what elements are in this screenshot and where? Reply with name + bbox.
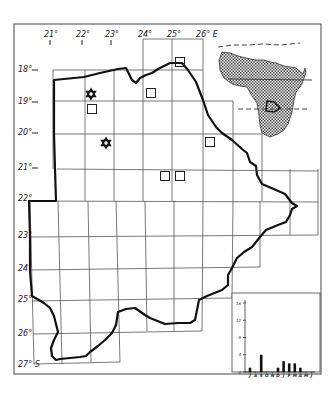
latitude-label: 21° [18,163,32,172]
square-marker [161,172,170,181]
longitude-labels: 21°22°23°24°25°26° E [44,30,219,45]
histogram-month-label: J [310,373,313,378]
longitude-label: 26° E [196,30,219,39]
africa-inset-map [218,43,312,137]
histogram-bar [299,368,302,372]
square-markers [88,58,215,181]
histogram-month-label: N [271,373,275,378]
histogram-month-label: O [265,373,269,378]
latitude-label: 26° [18,329,32,338]
longitude-label: 22° [76,30,90,39]
africa-shape [219,52,306,137]
latitude-label: 20° [18,128,32,137]
longitude-label: 21° [44,30,58,39]
longitude-label: 23° [105,30,119,39]
latitude-label: 19° [18,97,32,106]
square-marker [88,105,97,114]
square-marker [147,89,156,98]
histogram-month-label: J [282,373,285,378]
histogram-ytick: 12 [236,318,242,323]
star-of-david-marker [87,89,96,99]
histogram-bar [282,361,285,372]
histogram-month-label: S [260,373,263,378]
histogram-bar [277,368,280,372]
longitude-label: 25° [167,30,181,39]
histogram-month-label: A [253,373,257,378]
histogram-ytick: 16 [236,301,242,306]
botswana-grid-map: 21°22°23°24°25°26° E 18°19°20°21°22°23°2… [0,0,336,405]
latitude-label: 27° S [18,360,40,369]
latitude-label: 18° [18,65,32,74]
histogram-month-label: D [276,373,280,378]
histogram-bar [288,363,291,372]
histogram-bar [294,363,297,372]
square-marker [176,172,185,181]
star-of-david-marker [102,138,111,148]
histogram-bar [260,355,263,372]
histogram-month-label: F [288,373,291,378]
latitude-label: 25° [18,295,32,304]
square-marker [206,138,215,147]
histogram-month-label: J [248,373,251,378]
longitude-label: 24° [138,30,152,39]
histogram-bar [249,368,252,372]
histogram-month-label: A [298,373,302,378]
star-markers [87,89,111,148]
rainfall-histogram-inset: 0481216 JASONDJFMAMJ [232,293,320,378]
